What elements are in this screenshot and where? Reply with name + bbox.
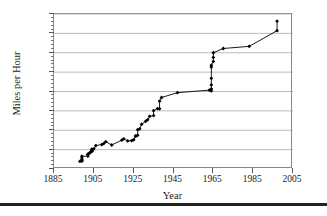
data-point-marker — [122, 137, 126, 141]
data-point-marker — [275, 29, 279, 33]
y-axis-major-tick — [49, 91, 54, 92]
data-point-marker — [90, 149, 94, 153]
y-axis-minor-tick — [51, 141, 54, 142]
y-axis-major-tick — [49, 32, 54, 33]
data-point-marker — [80, 156, 84, 160]
x-axis-major-tick — [292, 168, 293, 173]
data-point-marker — [158, 99, 162, 103]
data-point-marker — [160, 96, 164, 100]
data-point-marker — [209, 65, 213, 69]
y-axis-major-tick — [49, 71, 54, 72]
data-point-marker — [90, 147, 94, 151]
y-axis-minor-tick — [51, 87, 54, 88]
data-point-marker — [100, 143, 104, 147]
data-point-marker — [132, 138, 136, 142]
series-line — [80, 21, 277, 161]
data-point-marker — [247, 44, 251, 48]
x-axis-major-tick — [133, 168, 134, 173]
data-point-marker — [152, 109, 156, 113]
data-point-marker — [209, 87, 213, 91]
y-axis-minor-tick — [51, 164, 54, 165]
y-axis-minor-tick — [51, 17, 54, 18]
y-axis-minor-tick — [51, 79, 54, 80]
x-axis-major-tick — [93, 168, 94, 173]
x-axis-tick-label: 2005 — [272, 174, 312, 184]
y-axis-minor-tick — [51, 114, 54, 115]
x-axis-tick-label: 1985 — [232, 174, 272, 184]
gridlines — [54, 14, 293, 150]
data-point-marker — [120, 138, 124, 142]
chart-figure: Miles per Hour 0100200300400500600700800… — [0, 0, 327, 216]
y-axis-minor-tick — [51, 125, 54, 126]
data-point-marker — [275, 19, 279, 23]
data-point-marker — [156, 107, 160, 111]
data-point-marker — [90, 148, 94, 152]
data-point-marker — [130, 139, 134, 143]
data-point-marker — [148, 114, 152, 118]
data-point-marker — [144, 119, 148, 123]
data-point-marker — [92, 147, 96, 151]
data-point-marker — [110, 143, 114, 147]
x-axis-tick-label: 1925 — [113, 174, 153, 184]
y-axis-minor-tick — [51, 60, 54, 61]
data-point-marker — [88, 151, 92, 155]
data-point-marker — [221, 47, 225, 51]
x-axis-title: Year — [53, 190, 292, 201]
series-markers — [78, 19, 279, 163]
data-point-marker — [146, 118, 150, 122]
data-point-marker — [211, 51, 215, 55]
y-axis-minor-tick — [51, 98, 54, 99]
y-axis-minor-tick — [51, 83, 54, 84]
data-point-marker — [136, 128, 140, 132]
data-point-marker — [207, 88, 211, 92]
y-axis-minor-tick — [51, 102, 54, 103]
data-point-marker — [126, 139, 130, 143]
data-point-marker — [152, 114, 156, 118]
y-axis-minor-tick — [51, 153, 54, 154]
y-axis-major-tick — [49, 129, 54, 130]
data-point-marker — [80, 158, 84, 162]
data-point-marker — [102, 142, 106, 146]
y-axis-minor-tick — [51, 145, 54, 146]
y-axis-minor-tick — [51, 94, 54, 95]
bottom-divider — [0, 203, 327, 206]
x-axis-major-tick — [212, 168, 213, 173]
y-axis-minor-tick — [51, 67, 54, 68]
y-axis-major-tick — [49, 52, 54, 53]
data-point-marker — [90, 149, 94, 153]
y-axis-major-tick — [49, 149, 54, 150]
y-axis-minor-tick — [51, 137, 54, 138]
y-axis-minor-tick — [51, 75, 54, 76]
data-point-marker — [209, 89, 213, 93]
x-axis-tick-label: 1885 — [33, 174, 73, 184]
data-point-marker — [86, 153, 90, 157]
data-point-marker — [86, 154, 90, 158]
data-point-marker — [211, 60, 215, 64]
data-point-marker — [80, 154, 84, 158]
y-axis-minor-tick — [51, 122, 54, 123]
y-axis-major-tick — [49, 110, 54, 111]
data-point-marker — [80, 159, 84, 163]
y-axis-minor-tick — [51, 48, 54, 49]
data-point-marker — [209, 76, 213, 80]
y-axis-minor-tick — [51, 133, 54, 134]
data-point-marker — [78, 160, 82, 164]
data-point-marker — [90, 149, 94, 153]
data-point-marker — [138, 127, 142, 131]
x-axis-tick-label: 1945 — [153, 174, 193, 184]
y-axis-minor-tick — [51, 106, 54, 107]
data-point-marker — [211, 56, 215, 60]
data-point-marker — [134, 134, 138, 138]
y-axis-minor-tick — [51, 21, 54, 22]
data-series-land-speed-record — [54, 14, 293, 169]
y-axis-minor-tick — [51, 44, 54, 45]
y-axis-major-tick — [49, 13, 54, 14]
x-axis-tick-label: 1965 — [192, 174, 232, 184]
y-axis-minor-tick — [51, 63, 54, 64]
y-axis-major-tick — [49, 168, 54, 169]
data-point-marker — [134, 134, 138, 138]
data-point-marker — [158, 107, 162, 111]
data-point-marker — [209, 83, 213, 87]
y-axis-minor-tick — [51, 156, 54, 157]
x-axis-major-tick — [252, 168, 253, 173]
